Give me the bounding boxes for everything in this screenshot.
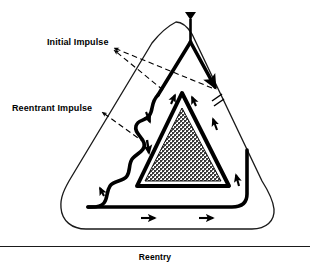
flow-arrow-right-lower xyxy=(236,175,239,186)
flow-arrow-wave-mid xyxy=(147,140,149,153)
leader-reentrant-impulse xyxy=(102,112,145,143)
label-initial-impulse: Initial Impulse xyxy=(47,38,109,47)
block-slash-2 xyxy=(214,99,224,106)
right-bundle-branch xyxy=(191,42,225,106)
flow-arrow-apex-right xyxy=(192,97,196,106)
flow-arrow-apex-left xyxy=(171,95,175,104)
left-bundle-branch xyxy=(158,42,191,95)
leader-initial-impulse-b xyxy=(114,50,163,90)
apex-arrowhead-icon xyxy=(185,12,196,20)
flow-arrow-wave-lower xyxy=(100,188,104,196)
reentry-figure: Initial Impulse Reentrant Impulse Reentr… xyxy=(0,0,310,276)
conduction-block-icon xyxy=(212,94,224,106)
block-slash-1 xyxy=(212,94,222,101)
flow-arrow-right-upper xyxy=(213,119,217,130)
figure-caption: Reentry xyxy=(0,253,310,262)
label-reentrant-impulse: Reentrant Impulse xyxy=(12,104,92,113)
left-branch-limb xyxy=(158,42,191,95)
figure-divider-rule xyxy=(0,246,310,247)
